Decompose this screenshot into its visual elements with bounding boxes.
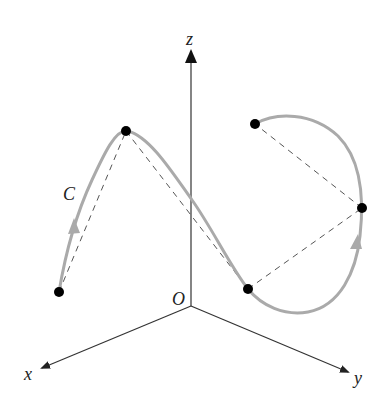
- chord-4: [255, 124, 362, 208]
- x-axis: [42, 306, 191, 368]
- z-axis-arrowhead-icon: [185, 49, 197, 63]
- point-5: [250, 119, 260, 129]
- chord-3: [248, 208, 362, 289]
- point-2: [121, 126, 131, 136]
- curve-c: [59, 116, 362, 313]
- axes: [42, 49, 348, 372]
- point-3: [243, 284, 253, 294]
- origin-label: O: [172, 289, 185, 309]
- y-axis: [191, 306, 348, 372]
- y-axis-label: y: [352, 368, 362, 388]
- direction-arrow-icon: [68, 218, 80, 234]
- space-curve-figure: z x y O C: [0, 0, 387, 411]
- x-axis-label: x: [23, 364, 32, 384]
- diagram-canvas: z x y O C: [0, 0, 387, 411]
- z-axis-label: z: [185, 29, 193, 49]
- chords: [59, 124, 362, 292]
- point-4: [357, 203, 367, 213]
- chord-2: [126, 131, 248, 289]
- curve-label: C: [63, 184, 76, 204]
- curve-points: [54, 119, 367, 297]
- chord-1: [59, 131, 126, 292]
- point-1: [54, 287, 64, 297]
